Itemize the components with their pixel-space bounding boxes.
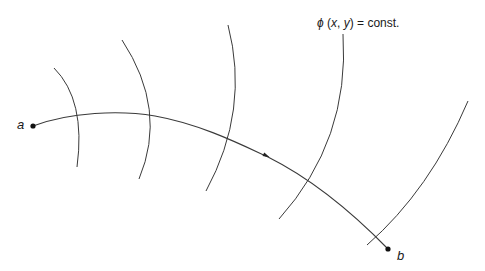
phi-args: (x, y) [324, 16, 354, 30]
phi-symbol: ϕ [317, 16, 324, 30]
phi-const: = const. [354, 16, 400, 30]
path-a-to-b [33, 113, 388, 249]
level-curve-3 [206, 25, 235, 191]
diagram-canvas [0, 0, 485, 271]
end-point-label: b [397, 248, 404, 263]
level-curve-1 [54, 68, 79, 167]
level-curves [54, 25, 468, 245]
level-curve-5 [367, 101, 468, 245]
start-point-label: a [17, 117, 24, 132]
equipotential-label: ϕ (x, y) = const. [317, 16, 399, 30]
start-point-dot [30, 123, 35, 128]
level-curve-4 [279, 34, 344, 219]
end-point-dot [385, 246, 390, 251]
level-curve-2 [122, 40, 150, 179]
